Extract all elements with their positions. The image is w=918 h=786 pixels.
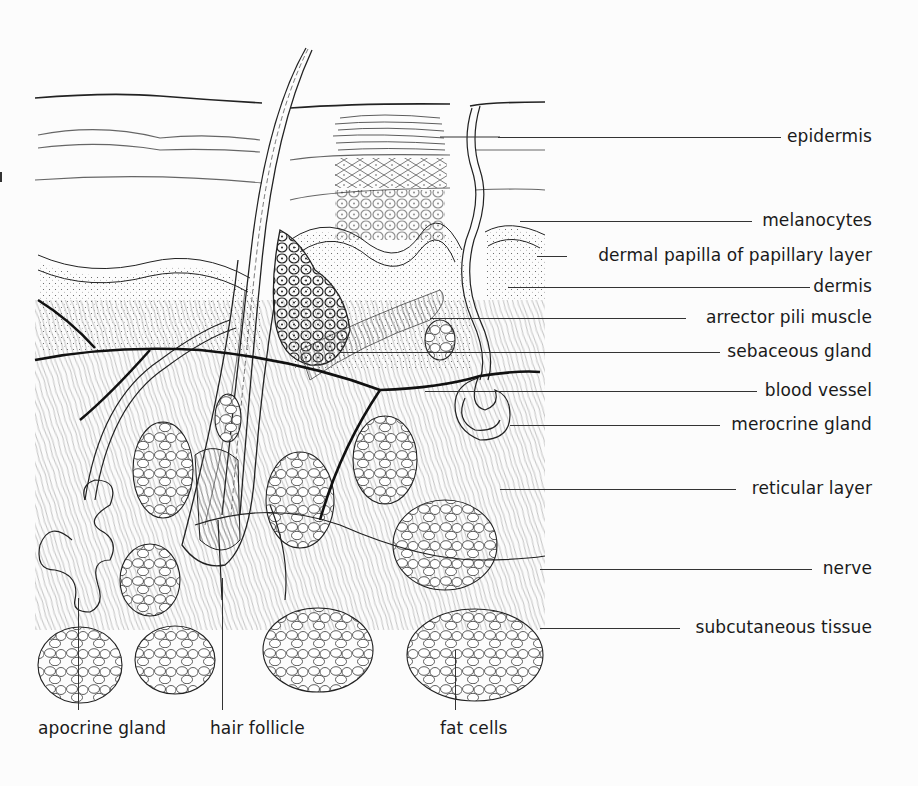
label-blood-vessel: blood vessel <box>765 380 872 400</box>
leader-line-apocrine-gland <box>78 598 79 710</box>
label-reticular-layer: reticular layer <box>752 478 872 498</box>
label-dermal-papilla: dermal papilla of papillary layer <box>598 245 872 265</box>
label-arrector-pili-muscle: arrector pili muscle <box>706 307 872 327</box>
leader-line-fat-cells <box>455 650 456 710</box>
label-nerve: nerve <box>823 558 872 578</box>
label-dermis: dermis <box>813 276 872 296</box>
leader-line-arrector-pili-muscle <box>430 318 686 319</box>
leader-line-sebaceous-gland <box>340 352 720 353</box>
label-subcutaneous-tissue: subcutaneous tissue <box>695 617 872 637</box>
label-sebaceous-gland: sebaceous gland <box>727 341 872 361</box>
label-merocrine-gland: merocrine gland <box>731 414 872 434</box>
leader-line-subcutaneous-tissue <box>540 628 680 629</box>
leader-line-reticular-layer <box>500 489 736 490</box>
label-epidermis: epidermis <box>787 126 872 146</box>
leader-line-blood-vessel <box>425 391 757 392</box>
leader-line-hair-follicle <box>222 578 223 710</box>
page-edge-mark <box>0 172 6 182</box>
leader-line-melanocytes <box>520 221 752 222</box>
leader-line-nerve <box>540 569 812 570</box>
leader-line-dermal-papilla <box>537 256 567 257</box>
leader-line-epidermis <box>498 137 781 138</box>
leader-line-dermis <box>508 287 810 288</box>
leader-line-merocrine-gland <box>510 425 720 426</box>
label-fat-cells: fat cells <box>440 718 507 738</box>
label-apocrine-gland: apocrine gland <box>38 718 166 738</box>
label-melanocytes: melanocytes <box>762 210 872 230</box>
label-hair-follicle: hair follicle <box>210 718 305 738</box>
